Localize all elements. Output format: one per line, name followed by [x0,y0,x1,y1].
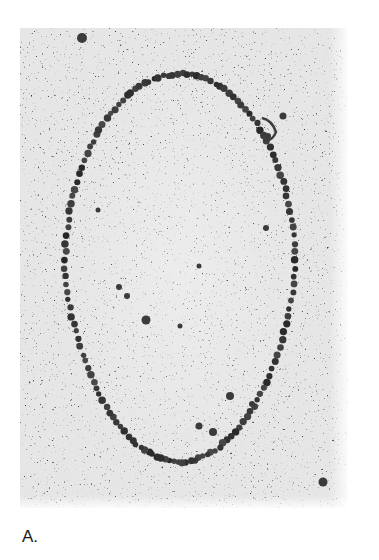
bead [67,200,75,208]
bead [63,282,69,288]
particle [249,401,255,407]
bead [171,459,176,464]
bead [106,410,113,417]
bead [67,313,74,320]
bead [120,97,126,103]
bead [112,106,119,113]
bead [291,256,299,264]
particle [226,392,234,400]
micrograph-image [20,28,348,508]
micrograph-figure: A. [0,0,379,560]
bead [261,385,267,391]
bead [61,265,67,271]
bead [286,306,291,311]
bead [290,224,297,231]
particle [178,324,183,329]
micrograph-panel [20,28,348,508]
bead [291,232,296,237]
bead [81,353,86,358]
particle [116,284,122,290]
bead [280,178,287,185]
bead [146,79,152,85]
bead [246,111,252,117]
bead [240,418,247,425]
bead [82,157,88,163]
bead [139,445,144,450]
particle [319,478,328,487]
particle [96,208,101,213]
bead [272,358,279,365]
bead [276,172,284,180]
bead [274,164,281,171]
particle [263,225,269,231]
bead [291,248,298,255]
bead [288,298,294,304]
particle [197,264,202,269]
bead [254,120,260,126]
bead [66,217,72,223]
bead [76,170,83,177]
bead [266,373,272,379]
particle [265,133,271,139]
bead [63,248,70,255]
bead [75,336,81,342]
bead [217,445,223,451]
bead [126,434,133,441]
bead [184,71,191,78]
particle [124,293,130,299]
particle [77,33,87,43]
bead [87,371,95,379]
bead [76,343,83,350]
particle [280,113,287,120]
particle [142,316,151,325]
bead [98,396,106,404]
bead [62,273,68,279]
bead [91,379,98,386]
bead [94,385,100,391]
bead [280,328,287,335]
bead [205,452,211,458]
bead [96,391,101,396]
bead [69,193,75,199]
bead [99,121,106,128]
bead [291,281,298,288]
bead [188,457,195,464]
bead [74,328,79,333]
bead [286,208,293,215]
bead [85,365,91,371]
bead [66,224,72,230]
bead [65,297,70,302]
bead [254,397,259,402]
bead [71,321,78,328]
bead [277,344,284,351]
bead [71,186,78,193]
bead [63,232,70,239]
bead [61,240,68,247]
bead [291,274,297,280]
bead [74,179,80,185]
bead [64,289,70,295]
bead [116,102,121,107]
bead [269,366,275,372]
bead [285,201,292,208]
bead [207,78,214,85]
panel-label: A. [22,527,38,547]
bead [285,313,292,320]
bead [67,304,73,310]
bead [65,207,72,214]
bead [161,72,166,77]
bead [84,150,91,157]
bead [82,358,88,364]
bead [91,139,96,144]
bead [283,185,290,192]
bead [104,404,110,410]
bead [154,74,162,82]
bead [79,165,85,171]
bead [290,289,296,295]
bead [274,352,281,359]
bead [289,217,295,223]
bead [283,320,290,327]
bead [267,143,274,150]
bead [279,336,286,343]
bead [292,241,298,247]
